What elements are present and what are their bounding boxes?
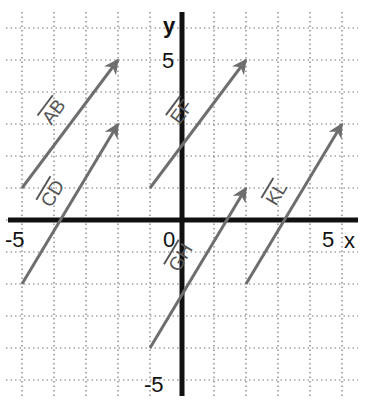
vector-cd: CD — [22, 124, 118, 284]
vector-kl: KL — [246, 124, 342, 284]
vector-label: EF — [166, 96, 197, 128]
y-axis-label: y — [163, 13, 176, 38]
vector-gh: GH — [150, 188, 246, 348]
y-max-label: 5 — [162, 48, 174, 73]
vector-arrow — [150, 188, 246, 348]
x-min-label: -5 — [5, 227, 25, 252]
vector-arrow — [22, 60, 118, 188]
x-max-label: 5 — [322, 227, 334, 252]
vector-label: CD — [36, 176, 68, 210]
vector-ab: AB — [22, 60, 118, 188]
origin-label: 0 — [163, 227, 175, 252]
vector-label: KL — [261, 178, 291, 209]
x-axis-label: x — [344, 228, 355, 253]
axes — [8, 12, 358, 396]
vector-arrow — [22, 124, 118, 284]
vector-arrow — [246, 124, 342, 284]
vector-label: AB — [38, 95, 70, 128]
y-min-label: -5 — [144, 372, 164, 397]
coordinate-plane: ABCDEFGHKL y 5 0 -5 5 x -5 — [0, 0, 375, 406]
